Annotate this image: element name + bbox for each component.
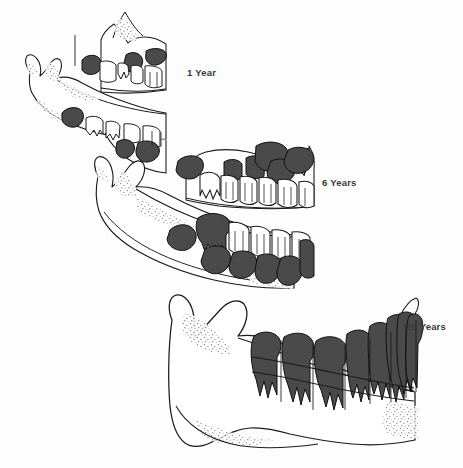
dental-development-figure: [0, 0, 463, 468]
jaw-illustration-svg: [0, 0, 463, 468]
age-label-1-year: 1 Year: [187, 67, 216, 78]
age-label-25-years: 25 Years: [406, 321, 446, 332]
age-label-6-years: 6 Years: [322, 177, 357, 188]
